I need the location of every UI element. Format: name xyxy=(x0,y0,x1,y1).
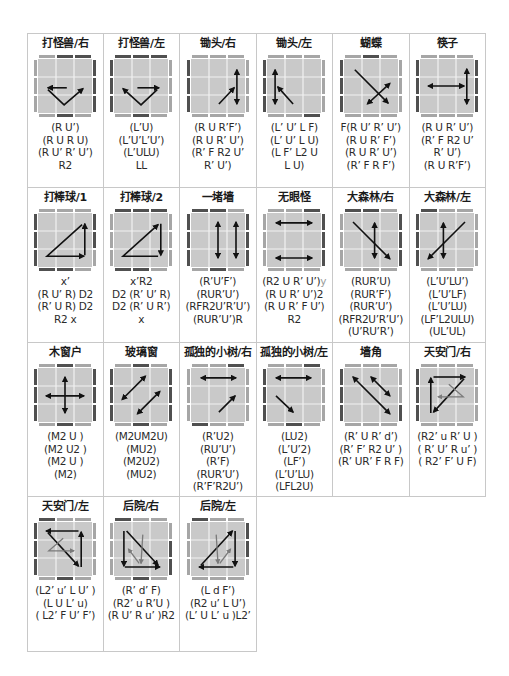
case-diagram xyxy=(261,208,327,272)
edge-sticker xyxy=(34,96,37,112)
edge-sticker xyxy=(363,423,379,426)
edge-sticker xyxy=(475,369,478,385)
case-title: 打棒球/2 xyxy=(120,191,163,205)
algorithm-line: (R U R’ F’) xyxy=(341,134,401,147)
case-algorithm: (R’ d’ F)(R2’ u R’U )(R U’ R u’ )R2 xyxy=(108,584,175,622)
algorithm-line: D2 (R’ U’ R) xyxy=(112,288,170,301)
edge-sticker xyxy=(363,114,379,117)
edge-sticker xyxy=(39,518,55,521)
algorithm-line: (RUR’U) xyxy=(338,275,403,288)
edge-sticker xyxy=(115,364,131,367)
edge-sticker xyxy=(39,209,55,212)
edge-sticker xyxy=(93,250,96,266)
edge-sticker xyxy=(110,369,113,385)
case-title: 无眼怪 xyxy=(278,191,310,205)
algorithm-line: R’ U’) xyxy=(421,146,473,159)
edge-sticker xyxy=(421,114,437,117)
edge-sticker xyxy=(399,214,402,230)
edge-sticker xyxy=(421,364,437,367)
case-cell: 锄头/右(R U R’F’)(R U R’ U’)(R’ F R2 U’R’ U… xyxy=(180,33,257,188)
algorithm-line: (M2UM2U) xyxy=(115,430,168,443)
edge-sticker xyxy=(39,114,55,117)
edge-sticker xyxy=(263,369,266,385)
algorithm-line: F(R U’ R’ U’) xyxy=(341,121,401,134)
case-algorithm: (R’ U R’ d’)(R’ F’ R2 U’ )(R’ UR’ F R F) xyxy=(338,430,404,468)
edge-sticker xyxy=(151,364,167,367)
case-algorithm: (R U R’F’)(R U R’ U’)(R’ F R2 U’R’ U’) xyxy=(192,121,244,171)
empty-cell xyxy=(333,497,410,652)
edge-sticker xyxy=(246,96,249,112)
edge-sticker xyxy=(439,209,455,212)
edge-sticker xyxy=(133,518,149,521)
algorithm-line: x xyxy=(112,313,170,326)
algorithm-line: (R’U2) xyxy=(193,430,243,443)
edge-sticker xyxy=(363,209,379,212)
edge-sticker xyxy=(39,268,55,271)
case-cell: 打棒球/1x’(R U’ R) D2(R’ U R) D2R2 x xyxy=(27,188,104,343)
case-algorithm: (R2’ u R’ U )( R’ U’ R u’ )( R2’ F’ U F) xyxy=(417,430,477,468)
edge-sticker xyxy=(93,214,96,230)
edge-sticker xyxy=(93,541,96,557)
case-diagram xyxy=(32,363,98,427)
case-title: 打怪兽/左 xyxy=(118,37,165,51)
case-cell: 打怪兽/左(L’U)(L’U’L’U’)(L’ULU)LL xyxy=(104,33,181,188)
edge-sticker xyxy=(210,114,226,117)
edge-sticker xyxy=(263,250,266,266)
edge-sticker xyxy=(93,96,96,112)
case-cell: 木窗户(M2 U )(M2 U2 )(M2 U )(M2) xyxy=(27,343,104,497)
edge-sticker xyxy=(151,518,167,521)
edge-sticker xyxy=(345,268,361,271)
algorithm-line: (L’U’L’U’) xyxy=(118,134,164,147)
edge-sticker xyxy=(187,405,190,421)
case-diagram xyxy=(32,517,98,581)
edge-sticker xyxy=(304,364,320,367)
edge-sticker xyxy=(263,96,266,112)
edge-sticker xyxy=(151,114,167,117)
edge-sticker xyxy=(416,369,419,385)
edge-sticker xyxy=(75,364,91,367)
edge-sticker xyxy=(381,209,397,212)
algorithm-line: (L2’ u’ L U’ ) xyxy=(35,584,95,597)
edge-sticker xyxy=(34,214,37,230)
edge-sticker xyxy=(439,364,455,367)
edge-sticker xyxy=(57,114,73,117)
case-cell: 筷子(R U R’ U’)(R’ F R2 U’R’ U’)(R U R’F’) xyxy=(410,33,487,188)
edge-sticker xyxy=(210,209,226,212)
edge-sticker xyxy=(39,423,55,426)
edge-sticker xyxy=(93,369,96,385)
edge-sticker xyxy=(399,250,402,266)
algorithm-line: (R U R’ U’) xyxy=(192,134,244,147)
case-title: 玻璃窗 xyxy=(125,346,157,360)
edge-sticker xyxy=(110,250,113,266)
edge-sticker xyxy=(210,364,226,367)
case-title: 锄头/右 xyxy=(200,37,236,51)
case-title: 后院/右 xyxy=(123,500,159,514)
algorithm-line: (R2’ u R’ U ) xyxy=(417,430,477,443)
edge-sticker xyxy=(286,268,302,271)
case-cell: 孤独的小树/右(R’U2)(RU’U’)(R’F)(RUR’U’)(R’F’R2… xyxy=(180,343,257,497)
edge-sticker xyxy=(263,214,266,230)
edge-sticker xyxy=(110,559,113,575)
case-algorithm: (R2 U R’ U’)y(R U R’ U’)2(R U R’ F U’)R2 xyxy=(262,275,326,325)
algorithm-line: (M2 U ) xyxy=(44,430,87,443)
edge-sticker xyxy=(421,268,437,271)
edge-sticker xyxy=(475,60,478,76)
edge-sticker xyxy=(34,523,37,539)
case-cell: 一堵墙(R’U’F’)(RUR’U’)(RFR2U’R’U’)(RUR’U’)R xyxy=(180,188,257,343)
edge-sticker xyxy=(381,364,397,367)
case-algorithm: x’R2D2 (R’ U’ R)D2 (R’ U R’)x xyxy=(112,275,170,325)
case-diagram xyxy=(185,54,251,118)
edge-sticker xyxy=(34,60,37,76)
edge-sticker xyxy=(304,114,320,117)
edge-sticker xyxy=(133,55,149,58)
algorithm-line: (LF’L2ULU) xyxy=(420,313,474,326)
case-diagram xyxy=(414,54,480,118)
algorithm-line: (L’ U’ L U) xyxy=(270,134,319,147)
edge-sticker xyxy=(228,423,244,426)
edge-sticker xyxy=(187,541,190,557)
edge-sticker xyxy=(263,405,266,421)
edge-sticker xyxy=(416,232,419,248)
edge-sticker xyxy=(399,232,402,248)
edge-sticker xyxy=(399,60,402,76)
top-face xyxy=(191,368,245,422)
